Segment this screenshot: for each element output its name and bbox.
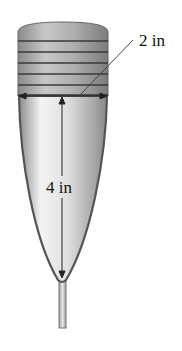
height-label: 4 in xyxy=(46,179,72,196)
holder-cap xyxy=(18,22,108,96)
stem xyxy=(59,280,66,328)
diameter-label: 2 in xyxy=(139,32,165,49)
cup-diagram xyxy=(0,0,182,351)
